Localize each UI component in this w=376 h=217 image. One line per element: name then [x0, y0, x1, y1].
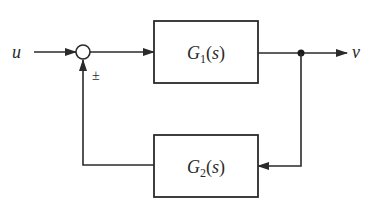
summing-sign-label: ± — [92, 68, 100, 83]
feedback-block-arg: (s) — [206, 157, 225, 178]
block-diagram: u ± G1(s) v G2(s) — [0, 0, 376, 217]
forward-block-arg: (s) — [206, 43, 225, 64]
feedback-block-label: G2(s) — [187, 157, 225, 180]
output-label: v — [352, 42, 360, 62]
summing-junction — [76, 45, 90, 59]
input-label: u — [12, 42, 21, 62]
feedback-path-to-g2 — [258, 53, 301, 166]
forward-block-label: G1(s) — [187, 43, 225, 66]
